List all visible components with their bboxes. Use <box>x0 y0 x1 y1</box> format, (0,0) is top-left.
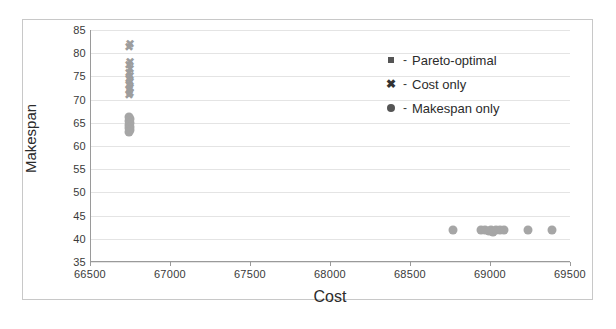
circle-marker <box>384 104 398 112</box>
gridline <box>91 216 570 217</box>
data-point-cross: ✖ <box>124 41 135 52</box>
x-tick-label: 67500 <box>220 268 280 280</box>
x-tick-label: 68000 <box>300 268 360 280</box>
gridline <box>91 30 570 31</box>
scatter-chart: Makespan 8580757065605550454035 ✖✖✖✖✖✖✖✖… <box>0 0 616 329</box>
x-tick-label: 66500 <box>60 268 120 280</box>
chart-legend: -Pareto-optimal✖-Cost only-Makespan only <box>384 48 574 120</box>
gridline <box>91 123 570 124</box>
gridline <box>91 192 570 193</box>
square-marker <box>384 57 398 63</box>
x-tick-mark <box>170 262 171 266</box>
data-point-circle <box>499 226 508 235</box>
y-tick-label: 35 <box>48 256 86 268</box>
square-marker-glyph <box>388 57 394 63</box>
legend-label: Pareto-optimal <box>412 53 497 68</box>
cross-marker: ✖ <box>384 78 398 90</box>
data-point-circle <box>547 226 556 235</box>
y-tick-label: 45 <box>48 210 86 222</box>
x-axis-title: Cost <box>90 288 570 306</box>
y-tick-label: 75 <box>48 70 86 82</box>
y-tick-label: 50 <box>48 186 86 198</box>
x-axis-tick-labels: 66500670006750068000685006900069500 <box>90 262 570 288</box>
gridline <box>91 169 570 170</box>
y-axis-title: Makespan <box>22 79 39 199</box>
legend-dash: - <box>398 53 412 67</box>
x-tick-label: 67000 <box>140 268 200 280</box>
x-tick-label: 69500 <box>540 268 600 280</box>
y-tick-label: 80 <box>48 47 86 59</box>
legend-item: ✖-Cost only <box>384 72 574 96</box>
x-tick-mark <box>330 262 331 266</box>
circle-marker-glyph <box>387 104 395 112</box>
y-tick-label: 85 <box>48 24 86 36</box>
data-point-circle <box>523 225 532 234</box>
y-tick-label: 55 <box>48 163 86 175</box>
legend-item: -Pareto-optimal <box>384 48 574 72</box>
x-tick-mark <box>570 262 571 266</box>
x-tick-mark <box>250 262 251 266</box>
legend-dash: - <box>398 77 412 91</box>
y-tick-label: 70 <box>48 94 86 106</box>
x-tick-mark <box>490 262 491 266</box>
legend-label: Makespan only <box>412 101 499 116</box>
gridline <box>91 239 570 240</box>
legend-dash: - <box>398 101 412 115</box>
x-tick-mark <box>410 262 411 266</box>
data-point-circle <box>448 226 457 235</box>
y-tick-label: 60 <box>48 140 86 152</box>
x-tick-label: 68500 <box>380 268 440 280</box>
data-point-circle <box>125 128 134 137</box>
x-tick-mark <box>90 262 91 266</box>
data-point-cross: ✖ <box>124 89 135 100</box>
cross-marker-glyph: ✖ <box>386 78 396 90</box>
legend-label: Cost only <box>412 77 466 92</box>
x-tick-label: 69000 <box>460 268 520 280</box>
y-tick-label: 65 <box>48 117 86 129</box>
y-tick-label: 40 <box>48 233 86 245</box>
gridline <box>91 146 570 147</box>
legend-item: -Makespan only <box>384 96 574 120</box>
y-axis-tick-labels: 8580757065605550454035 <box>44 30 86 262</box>
